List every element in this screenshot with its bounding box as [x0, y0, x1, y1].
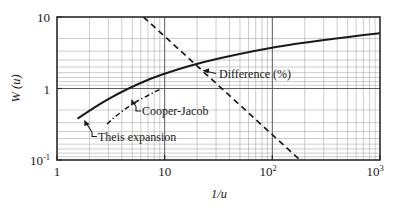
annotation-cooper-jacob-label: Cooper-Jacob — [142, 104, 208, 118]
y-tick-label-1: 1 — [44, 82, 51, 97]
y-axis-title: W (u) — [9, 74, 23, 102]
x-tick-label-10: 10 — [158, 164, 171, 179]
annotation-theis-label: Theis expansion — [98, 130, 176, 144]
chart-svg: Difference (%) Cooper-Jacob Theis expans… — [0, 0, 399, 208]
x-axis-title: 1/u — [211, 187, 227, 201]
figure-container: Difference (%) Cooper-Jacob Theis expans… — [0, 0, 399, 208]
y-tick-label-10: 10 — [37, 10, 50, 25]
x-tick-label-1: 1 — [54, 164, 61, 179]
annotation-difference-label: Difference (%) — [219, 67, 291, 81]
